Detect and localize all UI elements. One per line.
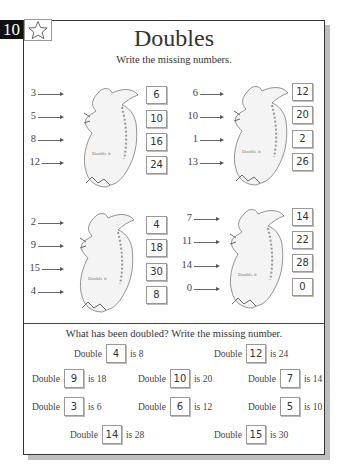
arrow-icon — [200, 163, 222, 164]
dragon-group-1: Double it 3 5 8 12 6 10 16 24 — [24, 83, 174, 188]
input-number: 14 — [174, 259, 192, 270]
arrow-icon — [194, 242, 218, 243]
answer-box[interactable]: 22 — [292, 231, 313, 249]
answer-box[interactable]: 10 — [170, 369, 190, 388]
answer-box[interactable]: 6 — [170, 397, 190, 416]
double-item: Double 15 is 30 — [214, 425, 288, 444]
input-number: 0 — [174, 282, 192, 293]
arrow-icon — [38, 117, 62, 118]
answer-box[interactable]: 12 — [292, 83, 313, 101]
input-number: 3 — [18, 87, 36, 98]
answer-box[interactable]: 6 — [146, 86, 167, 104]
arrow-icon — [42, 269, 62, 270]
arrow-icon — [200, 117, 222, 118]
svg-text:Double it: Double it — [88, 276, 107, 281]
input-number: 12 — [22, 156, 40, 167]
double-item: Double 4 is 8 — [74, 344, 143, 363]
double-item: Double 3 is 6 — [32, 397, 101, 416]
dragon-illustration: Double it — [222, 204, 294, 312]
double-item: Double 10 is 20 — [138, 369, 212, 388]
answer-box[interactable]: 9 — [64, 369, 84, 388]
arrow-icon — [38, 246, 62, 247]
answer-box[interactable]: 12 — [246, 344, 266, 363]
worksheet-frame: Doubles Write the missing numbers. Doubl… — [23, 20, 325, 455]
double-item: Double 5 is 10 — [248, 397, 322, 416]
arrow-icon — [38, 94, 62, 95]
answer-box[interactable]: 10 — [146, 110, 167, 128]
answer-box[interactable]: 14 — [292, 208, 313, 226]
input-number: 4 — [18, 285, 36, 296]
input-number: 1 — [180, 133, 198, 144]
answer-box[interactable]: 0 — [292, 278, 313, 296]
arrow-icon — [194, 219, 218, 220]
input-number: 15 — [22, 262, 40, 273]
dragon-illustration: Double it — [76, 83, 148, 191]
answer-box[interactable]: 26 — [292, 153, 313, 171]
answer-box[interactable]: 7 — [280, 369, 300, 388]
arrow-icon — [38, 223, 62, 224]
double-item: Double 12 is 24 — [214, 344, 288, 363]
double-item: Double 9 is 18 — [32, 369, 106, 388]
answer-box[interactable]: 15 — [246, 425, 266, 444]
input-number: 11 — [174, 235, 192, 246]
page-title: Doubles — [24, 25, 324, 52]
input-number: 10 — [180, 110, 198, 121]
input-number: 7 — [174, 212, 192, 223]
dragon-group-3: Double it 2 9 15 4 4 18 30 8 — [24, 216, 174, 321]
double-item: Double 14 is 28 — [70, 425, 144, 444]
answer-box[interactable]: 20 — [292, 106, 313, 124]
answer-box[interactable]: 5 — [280, 397, 300, 416]
double-item: Double 6 is 12 — [138, 397, 212, 416]
dragon-group-4: Double it 7 11 14 0 14 22 28 0 — [174, 216, 324, 321]
dragon-group-2: Double it 6 10 1 13 12 20 2 26 — [174, 83, 324, 188]
dragon-illustration: Double it — [226, 81, 298, 189]
arrow-icon — [200, 140, 222, 141]
arrow-icon — [200, 94, 222, 95]
input-number: 13 — [180, 156, 198, 167]
double-item: Double 7 is 14 — [248, 369, 322, 388]
answer-box[interactable]: 4 — [146, 216, 167, 234]
answer-box[interactable]: 16 — [146, 133, 167, 151]
section-title: What has been doubled? Write the missing… — [24, 328, 324, 339]
section-divider — [24, 323, 324, 324]
page-number-badge: 10 — [0, 20, 23, 39]
dragon-illustration: Double it — [72, 208, 144, 316]
arrow-icon — [38, 140, 62, 141]
input-number: 2 — [18, 216, 36, 227]
answer-box[interactable]: 8 — [146, 286, 167, 304]
answer-box[interactable]: 3 — [64, 397, 84, 416]
arrow-icon — [38, 292, 62, 293]
svg-text:Double it: Double it — [92, 151, 111, 156]
svg-text:Double it: Double it — [242, 149, 261, 154]
page-subtitle: Write the missing numbers. — [24, 54, 324, 65]
arrow-icon — [42, 163, 62, 164]
input-number: 8 — [18, 133, 36, 144]
answer-box[interactable]: 18 — [146, 239, 167, 257]
answer-box[interactable]: 24 — [146, 156, 167, 174]
answer-box[interactable]: 4 — [106, 344, 126, 363]
input-number: 9 — [18, 239, 36, 250]
input-number: 5 — [18, 110, 36, 121]
star-icon — [24, 19, 52, 41]
arrow-icon — [194, 289, 218, 290]
answer-box[interactable]: 14 — [102, 425, 122, 444]
arrow-icon — [194, 266, 218, 267]
input-number: 6 — [180, 87, 198, 98]
answer-box[interactable]: 30 — [146, 263, 167, 281]
answer-box[interactable]: 28 — [292, 254, 313, 272]
answer-box[interactable]: 2 — [292, 130, 313, 148]
svg-text:Double it: Double it — [238, 272, 257, 277]
